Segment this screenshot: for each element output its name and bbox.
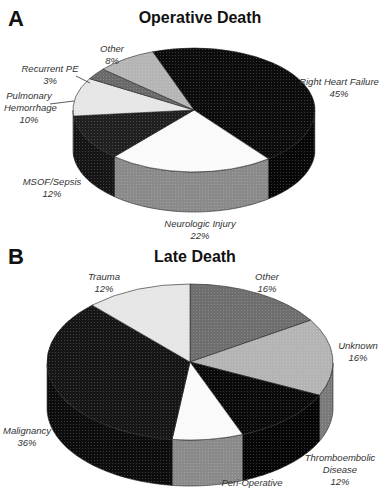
- label-malignancy: Malignancy 36%: [2, 425, 52, 449]
- label-trauma-pct: 12%: [84, 283, 124, 295]
- label-pulmonary-name2: Hemorrhage: [4, 102, 54, 114]
- label-unknown: Unknown 16%: [336, 340, 380, 364]
- label-other-b: Other 16%: [247, 271, 287, 295]
- label-other-b-name: Other: [247, 271, 287, 283]
- label-recurrent-pe-pct: 3%: [20, 75, 80, 87]
- label-thrombo-pct: 12%: [302, 476, 378, 488]
- label-recurrent-pe-name: Recurrent PE: [20, 63, 80, 75]
- label-trauma: Trauma 12%: [84, 271, 124, 295]
- label-neurologic-injury: Neurologic Injury 22%: [155, 218, 245, 242]
- label-thrombo-name1: Thromboembolic: [302, 452, 378, 464]
- label-recurrent-pe: Recurrent PE 3%: [20, 63, 80, 87]
- chart-title-operative-death: Operative Death: [120, 9, 280, 27]
- label-thromboembolic-disease: Thromboembolic Disease 12%: [302, 452, 378, 488]
- chart-title-late-death: Late Death: [130, 248, 260, 266]
- label-malignancy-name: Malignancy: [2, 425, 52, 437]
- label-unknown-pct: 16%: [336, 352, 380, 364]
- panel-letter-b: B: [8, 244, 24, 270]
- label-msof-name: MSOF/Sepsis: [22, 176, 82, 188]
- label-other-a: Other 8%: [92, 43, 132, 67]
- label-rhf-name: Right Heart Failure: [298, 76, 380, 88]
- label-periop-name: Peri-Operative: [212, 477, 292, 489]
- label-neuro-name: Neurologic Injury: [155, 218, 245, 230]
- label-right-heart-failure: Right Heart Failure 45%: [298, 76, 380, 100]
- label-other-a-pct: 8%: [92, 55, 132, 67]
- panel-letter-a: A: [8, 6, 24, 32]
- label-msof-sepsis: MSOF/Sepsis 12%: [22, 176, 82, 200]
- label-other-a-name: Other: [92, 43, 132, 55]
- label-neuro-pct: 22%: [155, 230, 245, 242]
- label-trauma-name: Trauma: [84, 271, 124, 283]
- label-pulmonary-pct: 10%: [4, 114, 54, 126]
- pie-chart-operative-death: [73, 48, 315, 212]
- label-pulmonary-hemorrhage: Pulmonary Hemorrhage 10%: [4, 90, 54, 126]
- label-other-b-pct: 16%: [247, 283, 287, 295]
- label-peri-operative: Peri-Operative: [212, 477, 292, 489]
- label-msof-pct: 12%: [22, 188, 82, 200]
- label-malignancy-pct: 36%: [2, 437, 52, 449]
- label-thrombo-name2: Disease: [302, 464, 378, 476]
- label-rhf-pct: 45%: [298, 88, 380, 100]
- label-pulmonary-name1: Pulmonary: [4, 90, 54, 102]
- pie-chart-late-death: [47, 284, 333, 486]
- label-unknown-name: Unknown: [336, 340, 380, 352]
